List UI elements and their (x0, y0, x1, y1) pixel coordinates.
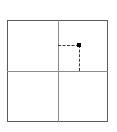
figure-canvas (0, 0, 117, 132)
vertical-guide-line (79, 45, 80, 71)
horizontal-guide-line (58, 45, 79, 46)
horizontal-axis-line (7, 71, 108, 72)
data-point-marker (77, 43, 81, 47)
